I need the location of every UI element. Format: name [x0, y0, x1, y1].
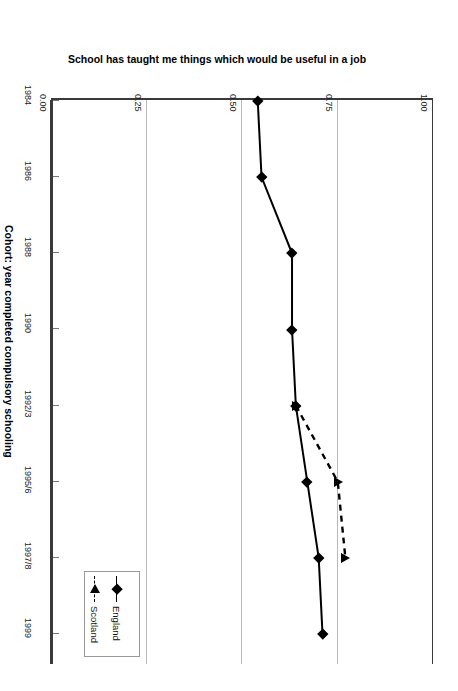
legend-entry-scotland: Scotland [83, 576, 107, 662]
value-axis-title: School has taught me things which would … [68, 53, 366, 65]
value-tick-label: 0.50 [229, 94, 239, 112]
category-tick-label: 1986 [23, 161, 33, 181]
value-tick-label: 0.00 [38, 94, 48, 112]
category-axis-title: Cohort: year completed compulsory school… [3, 225, 15, 458]
category-tick-label: 1995/6 [23, 466, 33, 494]
value-tick-label: 1.00 [419, 94, 429, 112]
legend-label-england: England [112, 606, 123, 641]
category-tick-label: 1992/3 [23, 390, 33, 418]
chart-rotation-wrapper: 0.000.250.500.751.00 1984198619881990199… [0, 0, 458, 691]
chart-legend: England Scotland [84, 571, 140, 657]
value-tick-label: 0.25 [133, 94, 143, 112]
category-tick-label: 1988 [23, 237, 33, 257]
series-line-england [258, 101, 323, 634]
legend-label-scotland: Scotland [90, 606, 101, 643]
category-tick-label: 1984 [23, 85, 33, 105]
legend-entry-england: England [105, 576, 129, 662]
category-tick-label: 1990 [23, 313, 33, 333]
value-tick-label: 0.75 [324, 94, 334, 112]
line-chart-figure: 0.000.250.500.751.00 1984198619881990199… [0, 0, 458, 691]
legend-swatch-scotland [89, 576, 101, 602]
category-tick-label: 1999 [23, 618, 33, 638]
legend-swatch-england [111, 576, 123, 602]
category-tick-label: 1997/8 [23, 542, 33, 570]
